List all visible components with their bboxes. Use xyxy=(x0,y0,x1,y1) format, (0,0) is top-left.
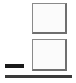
lower-panel[interactable] xyxy=(32,39,67,71)
screenshot-canvas xyxy=(0,0,76,83)
dash-bar-indicator[interactable] xyxy=(5,64,24,68)
bottom-divider xyxy=(5,75,72,78)
upper-panel[interactable] xyxy=(32,3,67,34)
